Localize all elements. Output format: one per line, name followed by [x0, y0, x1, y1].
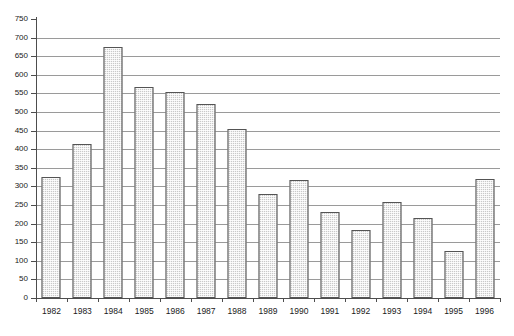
- y-axis-tick-label: 650: [0, 52, 28, 60]
- bar-slot: [469, 19, 500, 298]
- x-axis-tick-label-1989: 1989: [259, 306, 278, 316]
- x-axis-tick: [500, 298, 501, 302]
- x-axis-tick: [345, 298, 346, 302]
- bar-slot: [98, 19, 129, 298]
- x-axis-tick: [160, 298, 161, 302]
- y-axis-tick-label: 100: [0, 257, 28, 265]
- bar-1994[interactable]: [413, 218, 432, 298]
- x-axis-tick: [98, 298, 99, 302]
- x-axis-tick: [376, 298, 377, 302]
- y-axis-tick-label: 550: [0, 89, 28, 97]
- y-axis-tick-label: 500: [0, 108, 28, 116]
- x-axis-tick: [222, 298, 223, 302]
- bar-1990[interactable]: [289, 180, 308, 298]
- bar-1983[interactable]: [73, 144, 92, 298]
- x-axis-tick-label-1985: 1985: [135, 306, 154, 316]
- y-axis-tick-label: 450: [0, 127, 28, 135]
- y-axis-tick-label: 50: [0, 275, 28, 283]
- x-axis-tick-label-1994: 1994: [413, 306, 432, 316]
- y-axis-tick-label: 0: [0, 294, 28, 302]
- bar-slot: [67, 19, 98, 298]
- bar-chart: 0501001502002503003504004505005506006507…: [0, 0, 514, 336]
- x-axis-tick-label-1990: 1990: [289, 306, 308, 316]
- x-axis-tick-label-1982: 1982: [42, 306, 61, 316]
- x-axis-tick-label-1983: 1983: [73, 306, 92, 316]
- bar-1996[interactable]: [475, 179, 494, 298]
- x-axis-tick: [469, 298, 470, 302]
- y-axis-tick-label: 150: [0, 238, 28, 246]
- bar-slot: [191, 19, 222, 298]
- x-axis-tick: [407, 298, 408, 302]
- bar-slot: [345, 19, 376, 298]
- x-axis-tick: [36, 298, 37, 302]
- bar-slot: [283, 19, 314, 298]
- bar-1984[interactable]: [104, 47, 123, 298]
- x-axis-tick-label-1986: 1986: [166, 306, 185, 316]
- bar-slot: [36, 19, 67, 298]
- y-axis-tick-label: 200: [0, 220, 28, 228]
- bar-1991[interactable]: [320, 212, 339, 298]
- y-axis-tick-label: 350: [0, 164, 28, 172]
- bar-1989[interactable]: [258, 194, 277, 298]
- x-axis-tick: [283, 298, 284, 302]
- bar-1986[interactable]: [166, 92, 185, 298]
- bar-1993[interactable]: [382, 202, 401, 298]
- x-axis-tick: [129, 298, 130, 302]
- x-axis-tick: [438, 298, 439, 302]
- x-axis-tick-label-1993: 1993: [382, 306, 401, 316]
- x-axis-tick-label-1988: 1988: [228, 306, 247, 316]
- x-axis-tick-label-1992: 1992: [351, 306, 370, 316]
- x-axis-line: [36, 298, 500, 299]
- bar-1992[interactable]: [351, 230, 370, 298]
- x-axis-tick-label-1996: 1996: [475, 306, 494, 316]
- y-axis-tick-label: 400: [0, 145, 28, 153]
- y-axis-tick-label: 300: [0, 182, 28, 190]
- bar-slot: [253, 19, 284, 298]
- bars-layer: [36, 19, 500, 298]
- x-axis-tick: [191, 298, 192, 302]
- bar-1982[interactable]: [42, 177, 61, 298]
- bar-1995[interactable]: [444, 251, 463, 298]
- y-axis-tick-label: 700: [0, 34, 28, 42]
- bar-slot: [160, 19, 191, 298]
- bar-slot: [129, 19, 160, 298]
- y-axis-tick-label: 750: [0, 15, 28, 23]
- x-axis-tick-label-1987: 1987: [197, 306, 216, 316]
- x-axis-tick-label-1984: 1984: [104, 306, 123, 316]
- y-axis-tick-label: 250: [0, 201, 28, 209]
- x-axis-tick: [253, 298, 254, 302]
- bar-1988[interactable]: [228, 129, 247, 298]
- bar-1987[interactable]: [197, 104, 216, 298]
- bar-slot: [314, 19, 345, 298]
- y-axis-tick-label: 600: [0, 71, 28, 79]
- x-axis-tick: [67, 298, 68, 302]
- bar-slot: [222, 19, 253, 298]
- bar-1985[interactable]: [135, 87, 154, 298]
- x-axis-tick-label-1991: 1991: [320, 306, 339, 316]
- x-axis-tick: [314, 298, 315, 302]
- bar-slot: [407, 19, 438, 298]
- bar-slot: [438, 19, 469, 298]
- x-axis-tick-label-1995: 1995: [444, 306, 463, 316]
- bar-slot: [376, 19, 407, 298]
